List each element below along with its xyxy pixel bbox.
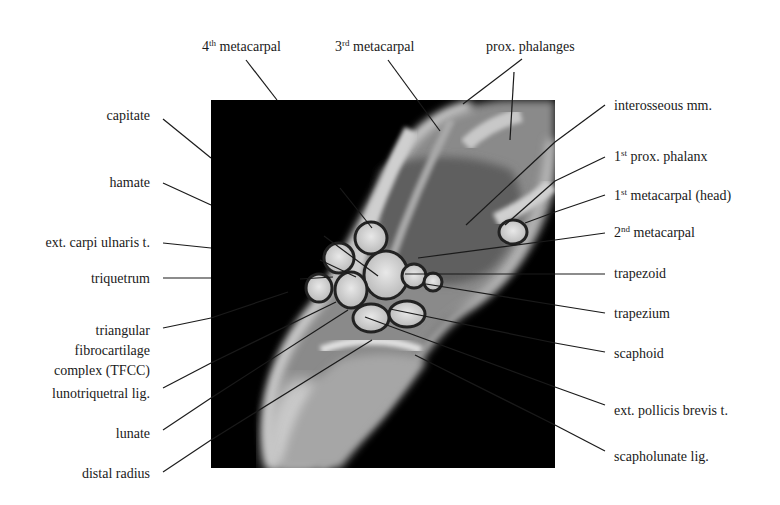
label-hamate: hamate: [110, 175, 150, 191]
leader-tfcc: [163, 318, 211, 328]
label-trapezoid: trapezoid: [614, 266, 666, 282]
label-triquetrum: triquetrum: [91, 271, 150, 287]
label-2nd-metacarpal: 2nd metacarpal: [614, 225, 695, 241]
label-3rd-metacarpal: 3rd metacarpal: [335, 39, 414, 55]
label-lunotriquetral-lig: lunotriquetral lig.: [52, 386, 150, 402]
leader-capitate: [163, 119, 211, 158]
label-lunate: lunate: [116, 426, 150, 442]
label-1st-metacarpal-head: 1st metacarpal (head): [614, 188, 731, 204]
label-capitate: capitate: [106, 108, 150, 124]
label-4th-metacarpal: 4th metacarpal: [202, 39, 281, 55]
label-distal-radius: distal radius: [82, 466, 150, 482]
leader-4th-metacarpal: [246, 60, 277, 100]
leader-lunate: [163, 398, 211, 430]
label-tfcc: triangular fibrocartilage complex (TFCC): [40, 321, 150, 381]
leader-distal-radius: [163, 440, 211, 472]
label-ext-pollicis-brevis: ext. pollicis brevis t.: [614, 403, 728, 419]
leader-trapezium: [555, 305, 605, 313]
leader-lunotriquetral: [163, 363, 211, 388]
label-trapezium: trapezium: [614, 306, 670, 322]
label-scaphoid: scaphoid: [614, 346, 664, 362]
label-ext-carpi-ulnaris: ext. carpi ulnaris t.: [45, 235, 150, 251]
leader-interosseous: [555, 105, 605, 142]
leader-2nd-metacarpal: [555, 233, 605, 240]
leader-1st-metacarpal: [555, 195, 605, 212]
label-interosseous: interosseous mm.: [614, 98, 712, 114]
label-1st-prox-phalanx: 1st prox. phalanx: [614, 149, 708, 165]
label-scapholunate-lig: scapholunate lig.: [614, 449, 709, 465]
leader-1st-prox-phalanx: [555, 157, 605, 181]
leader-scaphoid: [555, 343, 605, 352]
wrist-mri-image: [211, 100, 555, 468]
leader-epb: [555, 387, 605, 405]
leader-ecu: [163, 243, 211, 248]
leader-hamate: [163, 183, 211, 205]
leader-prox-phalanges-a: [463, 59, 522, 104]
label-prox-phalanges: prox. phalanges: [486, 39, 575, 55]
leader-scapholunate: [555, 425, 605, 451]
